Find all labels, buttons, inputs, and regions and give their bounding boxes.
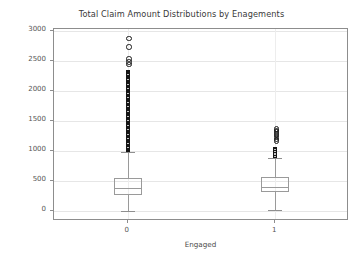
gridline-horizontal xyxy=(54,121,347,122)
cap-lower xyxy=(121,211,135,212)
outlier-gap xyxy=(127,138,129,139)
y-axis-tick-label: 0 xyxy=(0,206,46,213)
x-axis-tick-label: 0 xyxy=(107,226,147,234)
y-axis-tick-label: 1500 xyxy=(0,116,46,123)
x-axis-tick-label: 1 xyxy=(254,226,294,234)
y-axis-tick-label: 2000 xyxy=(0,86,46,93)
y-axis-tick-mark xyxy=(50,60,53,61)
whisker-upper xyxy=(275,158,276,176)
outlier-gap xyxy=(127,111,129,112)
x-axis-tick-mark xyxy=(127,220,128,223)
outlier-gap xyxy=(127,116,129,117)
outlier-gap xyxy=(274,149,276,150)
y-axis-tick-mark xyxy=(50,180,53,181)
outlier-gap xyxy=(127,88,129,89)
outlier-gap xyxy=(127,102,129,103)
outlier-gap xyxy=(274,154,276,155)
outlier-point xyxy=(126,36,131,41)
chart-title: Total Claim Amount Distributions by Enag… xyxy=(0,9,363,19)
whisker-upper xyxy=(128,152,129,178)
whisker-lower xyxy=(275,192,276,210)
outlier-gap xyxy=(127,120,129,121)
gridline-horizontal xyxy=(54,61,347,62)
outlier-point xyxy=(274,138,279,143)
outlier-gap xyxy=(127,74,129,75)
cap-upper xyxy=(121,152,135,153)
median-line-1 xyxy=(261,187,289,188)
x-axis-tick-mark xyxy=(274,220,275,223)
y-axis-tick-label: 3000 xyxy=(0,26,46,33)
plot-area xyxy=(53,28,348,220)
outlier-gap xyxy=(274,156,276,157)
box-1 xyxy=(261,177,289,192)
outlier-gap xyxy=(274,153,276,154)
outlier-gap xyxy=(127,84,129,85)
box-0 xyxy=(114,178,142,195)
figure: Total Claim Amount Distributions by Enag… xyxy=(0,0,363,261)
outlier-gap xyxy=(127,97,129,98)
gridline-horizontal xyxy=(54,181,347,182)
cap-lower xyxy=(268,210,282,211)
y-axis-tick-mark xyxy=(50,90,53,91)
y-axis-tick-label: 1000 xyxy=(0,146,46,153)
y-axis-tick-mark xyxy=(50,120,53,121)
outlier-point xyxy=(126,62,131,67)
outlier-gap xyxy=(127,106,129,107)
outlier-gap xyxy=(127,134,129,135)
gridline-horizontal xyxy=(54,31,347,32)
y-axis-tick-mark xyxy=(50,210,53,211)
outlier-point xyxy=(126,44,131,49)
outlier-gap xyxy=(127,125,129,126)
outlier-gap xyxy=(127,143,129,144)
gridline-horizontal xyxy=(54,151,347,152)
outlier-gap xyxy=(127,129,129,130)
y-axis-tick-mark xyxy=(50,150,53,151)
cap-upper xyxy=(268,158,282,159)
median-line-0 xyxy=(114,188,142,189)
gridline-horizontal xyxy=(54,211,347,212)
outlier-gap xyxy=(274,151,276,152)
outlier-gap xyxy=(127,147,129,148)
outlier-gap xyxy=(127,79,129,80)
outlier-gap xyxy=(127,93,129,94)
gridline-horizontal xyxy=(54,91,347,92)
whisker-lower xyxy=(128,195,129,211)
y-axis-tick-mark xyxy=(50,30,53,31)
y-axis-tick-label: 500 xyxy=(0,176,46,183)
y-axis-tick-label: 2500 xyxy=(0,56,46,63)
x-axis-label: Engaged xyxy=(53,240,348,249)
